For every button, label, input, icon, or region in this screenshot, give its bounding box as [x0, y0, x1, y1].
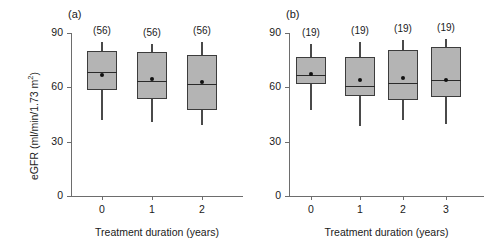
- y-tick-label-60: 60: [257, 80, 281, 92]
- sample-size-label: (19): [383, 23, 423, 34]
- box: [296, 57, 326, 84]
- median-line: [187, 84, 217, 85]
- x-tick-3: [446, 196, 447, 200]
- sample-size-label: (56): [182, 25, 222, 36]
- y-tick-30: [285, 142, 289, 143]
- whisker-upper: [445, 39, 446, 47]
- x-tick-2: [202, 196, 203, 200]
- x-axis-label-a: Treatment duration (years): [71, 226, 243, 238]
- y-axis-label-text: eGFR (ml/min/1.73 m: [28, 79, 40, 179]
- y-tick-90: [67, 33, 71, 34]
- sample-size-label: (19): [291, 27, 331, 38]
- sample-size-label: (56): [132, 27, 172, 38]
- y-axis-label-close: ): [28, 71, 40, 75]
- median-line: [137, 81, 167, 82]
- sample-size-label: (56): [82, 25, 122, 36]
- whisker-upper: [151, 44, 152, 52]
- y-tick-label-60: 60: [39, 80, 63, 92]
- box: [87, 51, 117, 90]
- x-tick-label-1: 1: [348, 203, 372, 215]
- whisker-upper: [359, 42, 360, 56]
- mean-marker: [200, 80, 204, 84]
- box: [137, 52, 167, 99]
- x-tick-label-0: 0: [299, 203, 323, 215]
- x-tick-label-0: 0: [90, 203, 114, 215]
- whisker-upper: [201, 42, 202, 55]
- whisker-lower: [445, 97, 446, 124]
- x-axis-label-b: Treatment duration (years): [289, 226, 484, 238]
- whisker-lower: [151, 99, 152, 122]
- sample-size-label: (19): [340, 25, 380, 36]
- box: [431, 47, 461, 97]
- x-tick-0: [311, 196, 312, 200]
- panel-a-label: (a): [68, 8, 81, 20]
- boxplot-figure: (a) eGFR (ml/min/1.73 m2) 0306090 012 (5…: [0, 0, 487, 251]
- whisker-lower: [402, 100, 403, 120]
- y-tick-60: [285, 87, 289, 88]
- x-tick-label-3: 3: [434, 203, 458, 215]
- y-tick-label-90: 90: [39, 26, 63, 38]
- whisker-lower: [201, 110, 202, 125]
- sample-size-label: (19): [426, 22, 466, 33]
- x-tick-label-2: 2: [190, 203, 214, 215]
- x-axis-line-a: [71, 196, 243, 197]
- y-tick-0: [67, 196, 71, 197]
- whisker-upper: [101, 42, 102, 51]
- y-axis-label-exponent: 2: [26, 75, 35, 79]
- median-line: [388, 83, 418, 84]
- panel-a: (a) eGFR (ml/min/1.73 m2) 0306090 012 (5…: [0, 0, 243, 251]
- median-line: [345, 86, 375, 87]
- y-axis-line-b: [289, 33, 290, 197]
- y-tick-label-90: 90: [257, 26, 281, 38]
- y-tick-30: [67, 142, 71, 143]
- whisker-upper: [310, 44, 311, 57]
- box: [345, 57, 375, 97]
- y-tick-60: [67, 87, 71, 88]
- x-axis-line-b: [289, 196, 484, 197]
- x-tick-1: [360, 196, 361, 200]
- panel-b: (b) 0306090 0123 (19)(19)(19)(19) Treatm…: [243, 0, 487, 251]
- x-tick-0: [102, 196, 103, 200]
- whisker-lower: [310, 84, 311, 110]
- whisker-lower: [359, 96, 360, 126]
- x-tick-1: [152, 196, 153, 200]
- mean-marker: [100, 73, 104, 77]
- y-tick-label-0: 0: [257, 189, 281, 201]
- x-tick-label-2: 2: [391, 203, 415, 215]
- y-tick-label-30: 30: [257, 135, 281, 147]
- y-tick-90: [285, 33, 289, 34]
- mean-marker: [309, 72, 313, 76]
- x-tick-2: [403, 196, 404, 200]
- y-tick-0: [285, 196, 289, 197]
- y-tick-label-30: 30: [39, 135, 63, 147]
- y-tick-label-0: 0: [39, 189, 63, 201]
- y-axis-line-a: [71, 33, 72, 197]
- panel-b-label: (b): [286, 8, 299, 20]
- whisker-lower: [101, 90, 102, 120]
- x-tick-label-1: 1: [140, 203, 164, 215]
- box: [388, 50, 418, 100]
- y-axis-label: eGFR (ml/min/1.73 m2): [26, 41, 40, 211]
- whisker-upper: [402, 40, 403, 50]
